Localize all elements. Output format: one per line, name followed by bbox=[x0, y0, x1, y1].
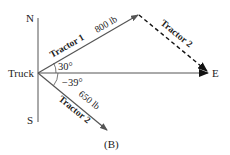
tractor1-magnitude: 800 lb bbox=[93, 14, 119, 35]
angle-arc-30 bbox=[54, 63, 56, 73]
truck-label: Truck bbox=[8, 67, 34, 79]
south-label: S bbox=[27, 114, 33, 126]
angle-arc-neg39 bbox=[54, 73, 59, 86]
vector-diagram: N S E Truck (B) 30° −39° Tractor 1 800 l… bbox=[0, 0, 230, 155]
tractor2-dashed-label: Tractor 2 bbox=[159, 18, 195, 50]
caption: (B) bbox=[104, 138, 119, 151]
angle-30-label: 30° bbox=[58, 61, 73, 72]
tractor1-vector bbox=[38, 15, 138, 73]
angle-neg39-label: −39° bbox=[62, 77, 83, 88]
east-label: E bbox=[212, 67, 219, 79]
north-label: N bbox=[26, 12, 34, 24]
